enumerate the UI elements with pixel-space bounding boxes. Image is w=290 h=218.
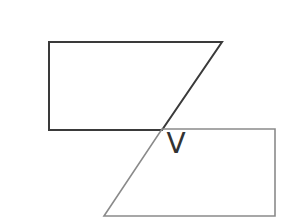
lower-trapezoid (104, 129, 275, 216)
vertex-label-v: V (166, 127, 185, 160)
trapezoid-diagram: V (0, 0, 290, 218)
upper-trapezoid (49, 42, 222, 130)
